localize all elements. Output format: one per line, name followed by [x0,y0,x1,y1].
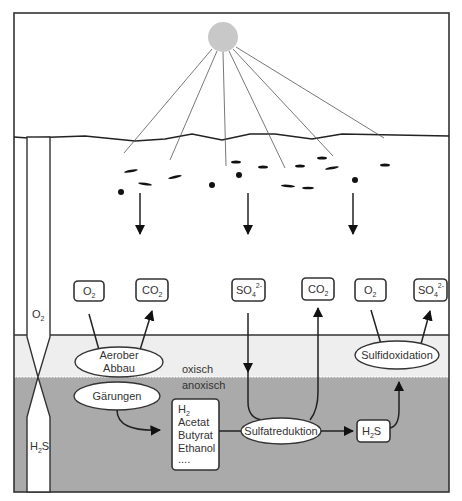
svg-text:Butyrat: Butyrat [178,429,213,441]
oxic-label: oxisch [182,363,213,375]
sulfur-cycle-diagram: O2 H2S O2 CO2 SO42- CO2 O2 SO42- Aerober… [0,0,462,501]
o2-left-box: O2 [74,281,104,301]
co2-middle-box: CO2 [302,278,334,300]
sun-icon [208,22,238,52]
svg-text:Acetat: Acetat [178,416,209,428]
co2-left-box: CO2 [136,279,168,301]
so4-left-box: SO42- [232,279,265,301]
svg-text:Abbau: Abbau [103,362,135,374]
svg-text:Aerober: Aerober [99,349,138,361]
sulfatreduktion-process: Sulfatreduktion [241,418,321,444]
o2-right-box: O2 [355,279,386,301]
svg-text:Sulfidoxidation: Sulfidoxidation [361,349,433,361]
sun-rays [124,47,384,168]
fermentation-products-box: H2 Acetat Butyrat Ethanol .... [172,399,219,470]
gaerungen-process: Gärungen [74,382,160,410]
plankton-particles [118,156,390,195]
svg-text:Sulfatreduktion: Sulfatreduktion [244,425,317,437]
aerober-abbau-process: Aerober Abbau [75,347,163,377]
sulfidoxidation-process: Sulfidoxidation [355,341,439,369]
so4-right-box: SO42- [414,279,447,301]
svg-text:Gärungen: Gärungen [93,390,142,402]
h2s-box: H2S [357,420,390,442]
svg-text:....: .... [178,453,190,465]
anoxic-label: anoxisch [182,379,225,391]
